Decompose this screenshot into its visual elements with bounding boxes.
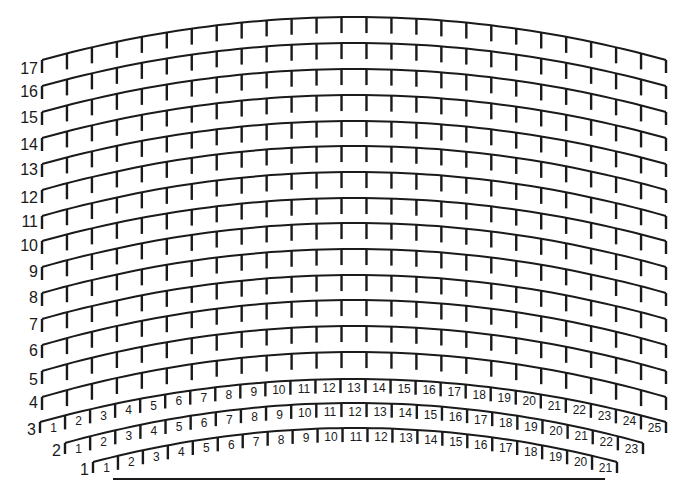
row-label: 7 [29,316,38,333]
seat-number: 3 [100,409,107,423]
row-arc [42,146,666,190]
row-label: 3 [27,421,36,438]
row-label: 10 [20,237,38,254]
row-label: 17 [20,60,38,77]
seat-number: 22 [600,435,614,449]
row-label: 4 [29,394,38,411]
seat-number: 20 [523,394,537,408]
seat-number: 16 [449,410,463,424]
row-label: 5 [29,371,38,388]
seat-number: 4 [151,424,158,438]
seat-number: 25 [648,421,662,435]
seat-number: 6 [228,438,235,452]
seat-number: 12 [374,430,388,444]
seat-number: 22 [573,403,587,417]
seat-rows: 1716151413121110987654123456789101112131… [20,17,666,478]
seat-number: 13 [373,405,387,419]
seat-number: 15 [397,382,411,396]
seat-number: 6 [175,394,182,408]
row-arc [42,326,666,371]
seat-row-1: 1234567891011121314151617181920211 [80,428,617,478]
seat-number: 19 [498,391,512,405]
row-label: 16 [20,83,38,100]
seat-number: 4 [178,445,185,459]
row-label: 13 [20,161,38,178]
seat-number: 11 [298,382,311,396]
seat-number: 18 [473,388,487,402]
seat-number: 24 [623,414,637,428]
seat-number: 17 [447,385,461,399]
seat-number: 14 [372,381,386,395]
row-arc [42,275,666,319]
row-arc [42,43,666,86]
seating-plan-diagram: 1716151413121110987654123456789101112131… [0,0,684,501]
seat-number: 17 [499,441,513,455]
seat-number: 14 [399,406,413,420]
seat-number: 5 [203,441,210,455]
seat-number: 16 [422,383,436,397]
seat-number: 5 [176,420,183,434]
seat-number: 19 [524,420,538,434]
seat-number: 5 [150,399,157,413]
row-label: 1 [80,461,89,478]
row-label: 12 [20,189,38,206]
row-label: 15 [20,109,38,126]
seat-number: 8 [278,433,285,447]
row-label: 8 [29,289,38,306]
seat-number: 15 [449,435,463,449]
row-arc [42,300,666,345]
seat-number: 8 [251,410,258,424]
seat-number: 12 [322,381,336,395]
row-label: 9 [29,263,38,280]
seat-number: 21 [574,429,588,443]
row-label: 14 [20,136,38,153]
seat-number: 21 [599,461,613,475]
seat-number: 23 [598,409,612,423]
seat-number: 10 [298,406,312,420]
row-arc [42,17,666,60]
row-arc [42,172,666,216]
seat-number: 1 [103,461,110,475]
row-arc [42,249,666,293]
seat-number: 21 [548,399,562,413]
seat-number: 15 [424,408,438,422]
row-label: 11 [21,213,38,230]
seat-number: 20 [549,424,563,438]
seat-number: 11 [350,430,363,444]
row-label: 2 [52,442,61,459]
seat-number: 10 [324,430,338,444]
seat-number: 19 [549,450,563,464]
seat-number: 7 [226,413,233,427]
seat-number: 2 [100,435,107,449]
seat-number: 9 [276,408,283,422]
seat-row-8: 8 [29,249,666,306]
row-arc [42,69,666,112]
seat-number: 1 [50,421,57,435]
seat-number: 16 [474,438,488,452]
seat-number: 7 [200,391,207,405]
row-arc [42,121,666,164]
seat-number: 11 [324,405,337,419]
seat-number: 18 [499,416,513,430]
row-arc [42,223,666,267]
seat-number: 4 [125,403,132,417]
seat-number: 13 [347,381,361,395]
seat-number: 3 [125,429,132,443]
row-label: 6 [29,342,38,359]
seat-number: 7 [253,435,260,449]
seat-number: 9 [303,431,310,445]
seat-number: 17 [474,413,488,427]
seat-row-11: 11 [21,172,666,230]
seat-number: 12 [348,405,362,419]
seat-number: 2 [128,455,135,469]
seat-number: 3 [153,450,160,464]
seat-number: 10 [272,383,286,397]
row-arc [42,198,666,241]
seat-number: 8 [225,388,232,402]
seat-row-9: 9 [29,223,666,280]
row-arc [42,95,666,138]
seat-number: 14 [424,433,438,447]
seat-number: 20 [574,455,588,469]
seat-number: 9 [250,385,257,399]
seat-number: 23 [625,442,639,456]
